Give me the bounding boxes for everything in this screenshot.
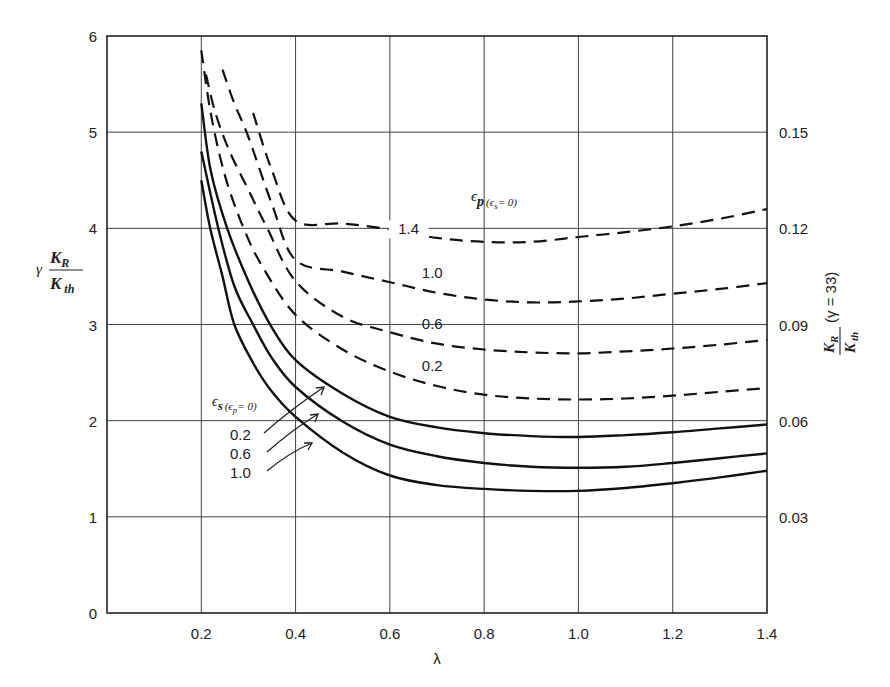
svg-text:Kth: Kth (842, 332, 860, 354)
y2-axis-label: KR Kth (γ = 33) (821, 272, 860, 355)
label-arrows (264, 387, 324, 471)
svg-text:ϵs(ϵp= 0): ϵs(ϵp= 0) (212, 394, 257, 415)
y-tick-label: 0 (89, 605, 97, 622)
y2-tick-label: 0.15 (779, 124, 808, 141)
series-line-dashed-1.0 (223, 70, 768, 303)
y-tick-label: 6 (89, 28, 97, 45)
solid-label-0.2: 0.2 (230, 426, 251, 443)
solid-label-0.6: 0.6 (230, 445, 251, 462)
series-label-dashed-0.2: 0.2 (422, 357, 443, 374)
svg-text:KR: KR (49, 248, 69, 270)
solid-legend-title: ϵs(ϵp= 0) (212, 394, 257, 415)
y-tick-label: 4 (89, 220, 97, 237)
dashed-legend-title: ϵp(ϵs= 0) (471, 188, 517, 211)
y-tick-label: 2 (89, 413, 97, 430)
series-label-dashed-1.0: 1.0 (422, 264, 443, 281)
y2-tick-label: 0.03 (779, 509, 808, 526)
y-tick-label: 5 (89, 124, 97, 141)
y2-tick-label: 0.09 (779, 317, 808, 334)
y2-tick-label: 0.12 (779, 220, 808, 237)
y2-tick-label: 0.06 (779, 413, 808, 430)
series-label-dashed-0.6: 0.6 (422, 315, 443, 332)
x-tick-label: 1.0 (568, 625, 589, 642)
solid-label-1.0: 1.0 (230, 464, 251, 481)
series-label-dashed-1.4: 1.4 (398, 220, 419, 237)
x-tick-label: 1.2 (662, 625, 683, 642)
y-axis-label: γ KR Kth (36, 248, 83, 296)
x-axis-label: λ (433, 650, 441, 667)
svg-text:Kth: Kth (49, 274, 75, 296)
x-tick-label: 0.8 (474, 625, 495, 642)
arrow-1.0 (267, 443, 312, 471)
y-tick-label: 1 (89, 509, 97, 526)
x-tick-label: 0.2 (191, 625, 212, 642)
x-tick-label: 0.6 (379, 625, 400, 642)
x-tick-label: 1.4 (757, 625, 778, 642)
y-tick-label: 3 (89, 317, 97, 334)
svg-text:γ: γ (36, 261, 43, 277)
chart: 1.41.00.60.2 0.20.40.60.81.01.21.4012345… (0, 0, 890, 687)
x-tick-label: 0.4 (285, 625, 306, 642)
svg-text:ϵp(ϵs= 0): ϵp(ϵs= 0) (471, 188, 517, 211)
ticks: 0.20.40.60.81.01.21.401234560.030.060.09… (89, 28, 809, 642)
svg-text:(γ = 33): (γ = 33) (822, 272, 839, 323)
svg-text:KR: KR (821, 336, 840, 354)
